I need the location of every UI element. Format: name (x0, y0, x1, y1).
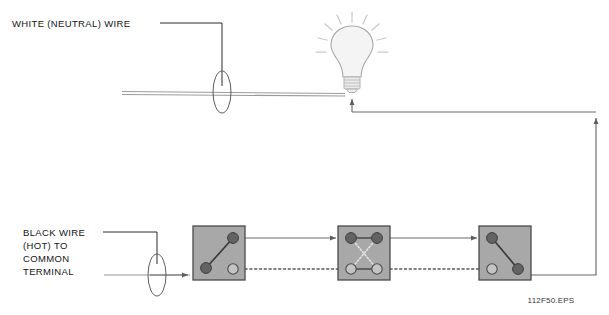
terminal-top-left-mid-switch (346, 233, 357, 244)
terminal-bottom-right-mid-switch (372, 264, 382, 274)
three-way-switch-right[interactable] (479, 226, 531, 280)
terminal-traveler-bottom-left-switch (228, 264, 238, 274)
hot-return-to-lamp-wire (352, 99, 596, 112)
terminal-bottom-left-mid-switch (346, 264, 356, 274)
terminal-common-right-switch (513, 264, 524, 275)
terminal-top-right-mid-switch (372, 233, 383, 244)
hot-feed-wire (103, 232, 190, 275)
hot-wire-label-line-1: BLACK WIRE (23, 227, 85, 238)
neutral-wire-label: WHITE (NEUTRAL) WIRE (12, 18, 130, 29)
terminal-traveler-top-left-switch (228, 233, 239, 244)
wiring-diagram-canvas: WHITE (NEUTRAL) WIRE BLACK WIRE (HOT) TO… (0, 0, 609, 315)
light-bulb (316, 12, 388, 93)
hot-wire-label-line-4: TERMINAL (23, 266, 74, 277)
wiring-diagram-svg: WHITE (NEUTRAL) WIRE BLACK WIRE (HOT) TO… (0, 0, 609, 315)
right-return-conductor (531, 118, 596, 275)
terminal-common-left-switch (201, 263, 212, 274)
terminal-traveler-bottom-right-switch (487, 264, 497, 274)
neutral-cable (122, 92, 345, 97)
figure-caption: 112F50.EPS (528, 296, 575, 305)
three-way-switch-left[interactable] (193, 226, 245, 280)
neutral-wire-leader (160, 23, 222, 86)
hot-wire-label-line-2: (HOT) TO (23, 240, 68, 251)
four-way-switch-middle[interactable] (338, 226, 390, 280)
terminal-traveler-top-right-switch (487, 233, 498, 244)
hot-wire-label-line-3: COMMON (23, 253, 69, 264)
